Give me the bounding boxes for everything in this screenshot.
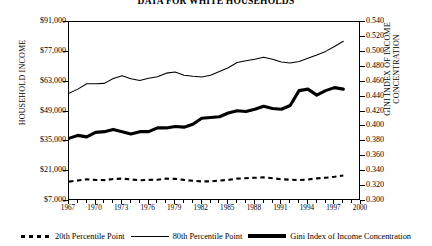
x-tick-label: 1973 [106,205,136,212]
series-gini-line [69,88,343,139]
left-axis-title: HOUSEHOLD INCOME [18,18,27,148]
legend-entry[interactable]: 20th Percentile Point [21,232,125,241]
x-tick-label: 1985 [212,205,242,212]
right-tick-label: 0.300 [366,196,384,204]
x-tick-label: 2000 [345,205,375,212]
legend-label: 20th Percentile Point [55,232,125,241]
x-tick-label: 1967 [53,205,83,212]
x-tick-label: 1994 [292,205,322,212]
chart-title: DATA FOR WHITE HOUSEHOLDS [0,0,432,6]
plot-lines [69,22,361,201]
right-tick-label: 0.520 [366,32,384,40]
x-tick-label: 1988 [239,205,269,212]
right-tick-label: 0.460 [366,77,384,85]
legend-entry[interactable]: Gini Index of Income Concentration [248,232,411,241]
legend-label: 80th Percentile Point [173,232,243,241]
right-axis-title-line1: GINI INDEX OF INCOME [383,22,392,116]
x-tick-label: 1997 [318,205,348,212]
right-tick-label: 0.540 [366,17,384,25]
right-tick-label: 0.400 [366,121,384,129]
x-tick-label: 1976 [133,205,163,212]
series-20th-percentile-line [69,175,343,181]
chart-legend: 20th Percentile Point80th Percentile Poi… [0,228,432,244]
x-tick-label: 1970 [80,205,110,212]
legend-swatch-thick [248,234,286,238]
x-tick-label: 1982 [186,205,216,212]
right-axis-title: GINI INDEX OF INCOME CONCENTRATION [383,9,401,129]
right-tick-label: 0.500 [366,47,384,55]
right-tick-label: 0.360 [366,151,384,159]
right-axis-title-line2: CONCENTRATION [392,9,401,129]
right-tick-label: 0.420 [366,107,384,115]
x-tick-label: 1979 [159,205,189,212]
right-tick-label: 0.380 [366,136,384,144]
right-tick-label: 0.320 [366,181,384,189]
legend-entry[interactable]: 80th Percentile Point [131,232,243,241]
x-tick-label: 1991 [265,205,295,212]
legend-swatch-thin [131,236,169,237]
series-80th-percentile-line [69,41,343,93]
legend-label: Gini Index of Income Concentration [290,232,411,241]
right-tick-label: 0.440 [366,92,384,100]
plot-area [68,21,360,200]
legend-swatch-dashed [21,235,51,238]
right-tick-label: 0.480 [366,62,384,70]
chart-figure: DATA FOR WHITE HOUSEHOLDS $91,000$77,000… [0,0,432,246]
right-tick-label: 0.340 [366,166,384,174]
